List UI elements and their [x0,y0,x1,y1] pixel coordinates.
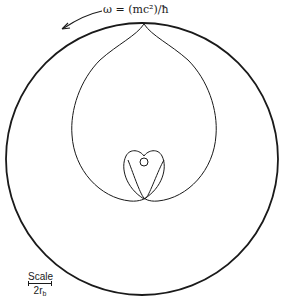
scale-title: Scale [28,271,52,282]
arrow-head-icon [62,23,70,29]
scale-unit-main: 2r [34,285,43,296]
large-loop [72,24,217,201]
trajectory-diagram [0,0,284,301]
scale-unit-sub: b [43,290,47,297]
omega-label: ω = (mc²)/ħ [103,3,169,16]
inner-circle [140,158,148,166]
scale-legend: Scale 2rb [28,271,52,297]
rotation-arrow [64,11,102,28]
scale-bar [28,283,52,284]
scale-unit: 2rb [28,285,52,297]
